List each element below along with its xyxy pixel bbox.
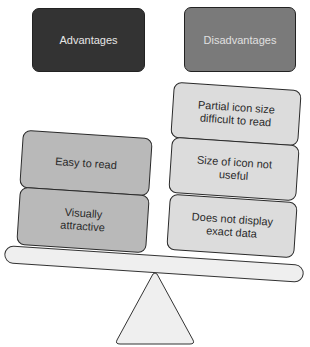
disadvantage-item: Partial icon size difficult to read	[170, 82, 301, 146]
disadvantage-item: Does not display exact data	[166, 194, 297, 258]
advantage-label: Visually attractive	[52, 205, 114, 235]
advantage-label: Easy to read	[55, 154, 117, 171]
disadvantages-header: Disadvantages	[184, 7, 296, 72]
advantages-header: Advantages	[32, 8, 145, 72]
advantage-item: Easy to read	[19, 130, 153, 196]
disadvantage-item: Size of icon not useful	[168, 137, 299, 201]
advantage-item: Visually attractive	[16, 187, 150, 253]
disadvantage-label: Does not display exact data	[181, 210, 283, 243]
fulcrum-triangle	[115, 272, 195, 346]
disadvantage-label: Size of icon not useful	[193, 153, 275, 184]
disadvantages-header-label: Disadvantages	[204, 34, 277, 46]
disadvantage-label: Partial icon size difficult to read	[185, 98, 287, 131]
advantages-header-label: Advantages	[59, 34, 117, 46]
